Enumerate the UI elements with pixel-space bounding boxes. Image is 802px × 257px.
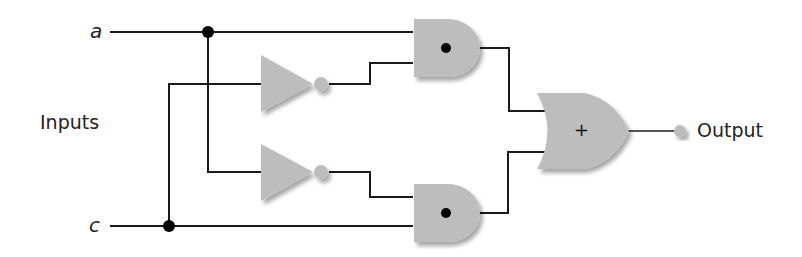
wire-and2-to-or [478, 152, 545, 213]
junction-dot-c [163, 220, 175, 232]
output-label: Output [697, 119, 763, 141]
logic-circuit-diagram: a c Inputs Output + [0, 0, 802, 257]
wire-not1-to-and1 [329, 63, 413, 84]
wire-and1-to-or [478, 48, 545, 111]
output-bubble [674, 125, 686, 137]
input-c-label: c [89, 213, 100, 237]
and-gate-2-dot-icon [441, 208, 451, 218]
and-gate-1-dot-icon [441, 43, 451, 53]
wire-not2-to-and2 [329, 172, 413, 197]
not-gate-2 [261, 144, 328, 201]
junction-dot-a [202, 26, 214, 38]
not-gate-1 [261, 55, 328, 112]
wire-c-to-not1 [169, 84, 262, 226]
circuit-svg [0, 0, 802, 257]
input-a-label: a [90, 19, 102, 43]
or-gate-plus-symbol: + [574, 119, 589, 140]
inputs-label: Inputs [40, 111, 99, 133]
wire-a-to-not2 [208, 32, 262, 172]
